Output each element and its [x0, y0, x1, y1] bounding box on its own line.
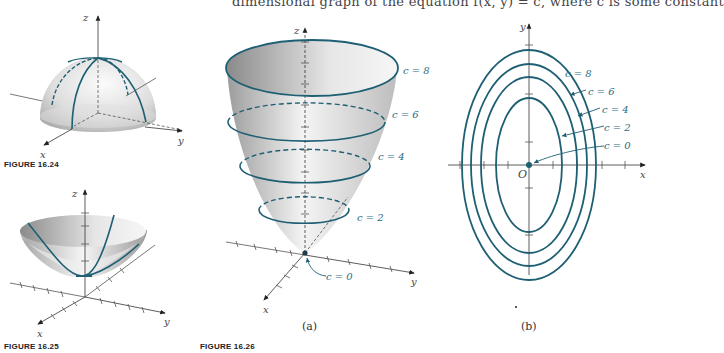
axis-label-y: y [163, 316, 170, 327]
level-label-c0: c = 0 [326, 271, 353, 282]
level-label-c6: c = 6 [392, 109, 419, 120]
figure-16-24-hemisphere: z y x [10, 12, 184, 160]
panel-label-a: (a) [302, 320, 317, 333]
contour-label-c0: c = 0 [604, 140, 631, 151]
axis-label-z: z [293, 25, 300, 36]
figure-16-25-paraboloid: z y x [10, 188, 170, 339]
axis-label-x: x [37, 328, 43, 339]
level-label-c2: c = 2 [357, 212, 384, 223]
contour-label-c2: c = 2 [604, 122, 631, 133]
axis-label-x: x [40, 149, 46, 160]
figure-16-26b-contour-map: y x O c = 8 c = 6 c = 4 c = 2 c = 0 [448, 21, 646, 308]
axis-label-x: x [640, 169, 646, 180]
axis-label-z: z [82, 12, 89, 23]
caption-figure-16-26: FIGURE 16.26 [200, 342, 255, 351]
caption-figure-16-24: FIGURE 16.24 [4, 160, 59, 169]
figure-16-26a-paraboloid-levels: z y x c = 8 c = 6 c = 4 c = 2 c = 0 [226, 25, 430, 315]
axis-label-y: y [410, 276, 417, 287]
axis-label-y: y [519, 21, 526, 32]
caption-figure-16-25: FIGURE 16.25 [4, 342, 59, 351]
contour-label-c6: c = 6 [588, 86, 615, 97]
contour-label-c4: c = 4 [602, 104, 629, 115]
origin-label: O [518, 168, 527, 181]
axis-label-z: z [71, 188, 78, 199]
level-label-c4: c = 4 [378, 151, 405, 162]
contour-label-c8: c = 8 [565, 68, 592, 79]
level-label-c8: c = 8 [403, 65, 430, 76]
axis-label-y: y [177, 135, 184, 146]
panel-label-b: (b) [521, 320, 537, 333]
axis-label-x: x [263, 304, 269, 315]
